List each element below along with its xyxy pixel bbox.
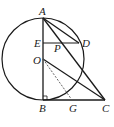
label-g: G — [69, 102, 77, 114]
geometry-diagram: A E P D O B G C — [0, 0, 114, 127]
segment-oc — [43, 59, 105, 100]
segment-ac — [43, 18, 105, 100]
segment-og-dashed — [43, 59, 72, 100]
label-o: O — [33, 54, 41, 66]
label-a: A — [38, 5, 46, 17]
label-e: E — [33, 37, 41, 49]
label-d: D — [81, 37, 90, 49]
label-b: B — [39, 102, 46, 114]
label-c: C — [102, 102, 110, 114]
label-p: P — [53, 42, 61, 54]
